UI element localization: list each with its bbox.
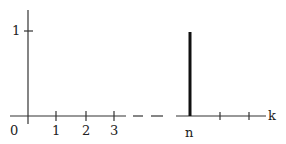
y-tick-label-1: 1 [12,24,20,37]
x-tick-label-2: 2 [82,124,90,137]
axes-svg [0,0,286,144]
x-tick-label-3: 3 [110,124,118,137]
x-tick-label-0: 0 [10,124,18,137]
x-tick-label-1: 1 [52,124,60,137]
x-axis-label-k: k [268,109,276,122]
x-tick-label-n: n [185,126,193,139]
impulse-diagram: 1 0 1 2 3 n k [0,0,286,144]
